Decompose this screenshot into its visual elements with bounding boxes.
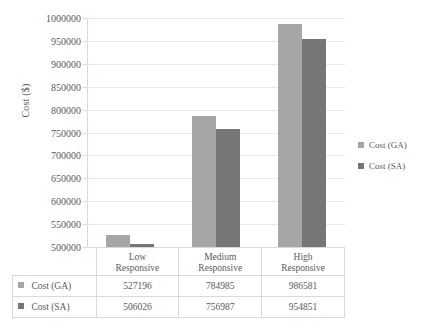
chart-figure: Cost ($) 1000000950000900000850000800000… bbox=[0, 0, 436, 326]
table-column-header: MediumResponsive bbox=[179, 247, 262, 276]
y-axis-tick-label: 850000 bbox=[19, 81, 81, 92]
legend-label: Cost (SA) bbox=[369, 161, 405, 171]
legend-swatch-icon bbox=[358, 163, 364, 169]
table-column-header: LowResponsive bbox=[96, 247, 179, 276]
column-header-line1: Medium bbox=[181, 252, 259, 263]
legend-item[interactable]: Cost (GA) bbox=[358, 140, 407, 150]
bar-group bbox=[87, 18, 173, 247]
y-axis-tick-label: 800000 bbox=[19, 104, 81, 115]
data-table: LowResponsiveMediumResponsiveHighRespons… bbox=[12, 247, 345, 318]
bar-ga bbox=[192, 116, 216, 247]
table-cell: 506026 bbox=[96, 297, 179, 318]
y-axis-tick-label: 600000 bbox=[19, 196, 81, 207]
table-cell: 954851 bbox=[262, 297, 345, 318]
data-table-body: LowResponsiveMediumResponsiveHighRespons… bbox=[13, 247, 345, 318]
column-header-line2: Responsive bbox=[181, 263, 259, 274]
legend-label: Cost (GA) bbox=[369, 140, 407, 150]
series-swatch-icon bbox=[18, 282, 24, 288]
y-axis-tick-label: 900000 bbox=[19, 58, 81, 69]
table-row-header: Cost (SA) bbox=[13, 297, 97, 318]
y-axis-tick-label: 550000 bbox=[19, 219, 81, 230]
series-swatch-icon bbox=[18, 303, 24, 309]
y-axis-tick-label: 1000000 bbox=[19, 13, 81, 24]
plot-area bbox=[87, 18, 345, 247]
y-axis-tick-label: 950000 bbox=[19, 35, 81, 46]
chart-legend: Cost (GA)Cost (SA) bbox=[358, 140, 407, 182]
y-axis-tick-label: 700000 bbox=[19, 150, 81, 161]
table-row: Cost (GA)527196784985986581 bbox=[13, 276, 345, 297]
column-header-line2: Responsive bbox=[99, 263, 177, 274]
table-column-header: HighResponsive bbox=[262, 247, 345, 276]
legend-swatch-icon bbox=[358, 142, 364, 148]
bar-group bbox=[259, 18, 345, 247]
legend-item[interactable]: Cost (SA) bbox=[358, 161, 407, 171]
y-axis-tick-label: 750000 bbox=[19, 127, 81, 138]
table-row-header: Cost (GA) bbox=[13, 276, 97, 297]
bar-group bbox=[173, 18, 259, 247]
table-header-row: LowResponsiveMediumResponsiveHighRespons… bbox=[13, 247, 345, 276]
y-axis-tick-label: 650000 bbox=[19, 173, 81, 184]
bar-sa bbox=[216, 129, 240, 247]
table-cell: 986581 bbox=[262, 276, 345, 297]
column-header-line2: Responsive bbox=[264, 263, 342, 274]
column-header-line1: High bbox=[264, 252, 342, 263]
bar-groups bbox=[87, 18, 345, 247]
table-cell: 756987 bbox=[179, 297, 262, 318]
table-cell: 527196 bbox=[96, 276, 179, 297]
series-label: Cost (SA) bbox=[31, 302, 69, 312]
table-row: Cost (SA)506026756987954851 bbox=[13, 297, 345, 318]
bar-sa bbox=[302, 39, 326, 247]
series-label: Cost (GA) bbox=[31, 281, 71, 291]
table-corner-cell bbox=[13, 247, 97, 276]
bar-ga bbox=[278, 24, 302, 247]
bar-ga bbox=[106, 235, 130, 247]
table-cell: 784985 bbox=[179, 276, 262, 297]
column-header-line1: Low bbox=[99, 252, 177, 263]
